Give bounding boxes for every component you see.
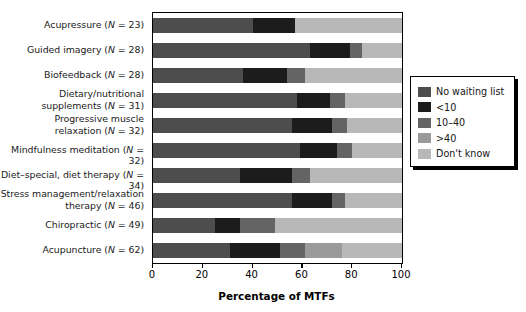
x-axis-tick-label: 100 xyxy=(391,269,410,280)
category-label: Guided imagery (N = 28) xyxy=(0,44,144,55)
legend-item[interactable]: >40 xyxy=(418,132,456,145)
legend-item[interactable]: No waiting list xyxy=(418,85,504,98)
bar-segment xyxy=(153,68,243,83)
bar-segment xyxy=(362,43,402,58)
bar-segment xyxy=(310,43,350,58)
bar-segment xyxy=(352,143,402,158)
bar-segment xyxy=(215,218,240,233)
bar-row xyxy=(153,18,402,33)
category-label: Acupressure (N = 23) xyxy=(0,19,144,30)
bar-row xyxy=(153,43,402,58)
bar-segment xyxy=(240,168,292,183)
x-axis-tick xyxy=(152,263,153,268)
bar-segment xyxy=(153,18,253,33)
bar-segment xyxy=(330,93,345,108)
bar-segment xyxy=(337,143,352,158)
category-label: Mindfulness meditation (N = 32) xyxy=(0,144,144,166)
bar-segment xyxy=(153,193,292,208)
bar-segment xyxy=(347,118,402,133)
x-axis-tick xyxy=(202,263,203,268)
bar-segment xyxy=(275,218,402,233)
x-axis-tick xyxy=(252,263,253,268)
chart-figure: Acupressure (N = 23)Guided imagery (N = … xyxy=(0,0,526,312)
bar-segment xyxy=(305,68,402,83)
x-axis-tick xyxy=(301,263,302,268)
bar-segment xyxy=(253,18,295,33)
stacked-bars xyxy=(153,13,402,263)
legend-label: 10–40 xyxy=(436,117,465,128)
legend-label: Don't know xyxy=(436,148,490,159)
bar-segment xyxy=(342,243,402,258)
legend-item[interactable]: Don't know xyxy=(418,147,490,160)
bar-segment xyxy=(297,93,329,108)
x-axis-tick xyxy=(351,263,352,268)
legend-item[interactable]: 10–40 xyxy=(418,116,465,129)
bar-row xyxy=(153,118,402,133)
x-axis-title: Percentage of MTFs xyxy=(152,290,401,302)
bar-segment xyxy=(153,243,230,258)
legend-label: No waiting list xyxy=(436,86,504,97)
bar-segment xyxy=(292,168,309,183)
bar-segment xyxy=(332,193,344,208)
bar-row xyxy=(153,218,402,233)
legend-swatch xyxy=(418,102,431,112)
legend-swatch xyxy=(418,118,431,128)
bar-segment xyxy=(153,168,240,183)
bar-segment xyxy=(153,118,292,133)
x-axis-tick-label: 60 xyxy=(295,269,308,280)
bar-segment xyxy=(153,143,300,158)
bar-segment xyxy=(240,218,275,233)
bar-segment xyxy=(300,143,337,158)
category-label: Dietary/nutritionalsupplements (N = 31) xyxy=(0,88,144,110)
bar-segment xyxy=(153,218,215,233)
category-label: Chiropractic (N = 49) xyxy=(0,219,144,230)
bar-row xyxy=(153,143,402,158)
category-axis-labels: Acupressure (N = 23)Guided imagery (N = … xyxy=(0,12,148,262)
x-axis-tick-label: 40 xyxy=(245,269,258,280)
bar-segment xyxy=(153,93,297,108)
chart-legend: No waiting list<1010–40>40Don't know xyxy=(410,76,515,167)
legend-label: <10 xyxy=(436,102,456,113)
x-axis-tick-label: 80 xyxy=(345,269,358,280)
category-label: Biofeedback (N = 28) xyxy=(0,69,144,80)
bar-segment xyxy=(280,243,305,258)
bar-segment xyxy=(310,168,402,183)
bar-segment xyxy=(292,118,332,133)
legend-swatch xyxy=(418,87,431,97)
bar-segment xyxy=(350,43,362,58)
x-axis-tick-label: 20 xyxy=(195,269,208,280)
legend-label: >40 xyxy=(436,133,456,144)
bar-row xyxy=(153,68,402,83)
category-label: Acupuncture (N = 62) xyxy=(0,244,144,255)
category-label: Progressive musclerelaxation (N = 32) xyxy=(0,113,144,135)
bar-segment xyxy=(345,93,402,108)
bar-segment xyxy=(287,68,304,83)
bar-segment xyxy=(345,193,402,208)
bar-segment xyxy=(243,68,288,83)
bar-segment xyxy=(295,18,402,33)
legend-swatch xyxy=(418,149,431,159)
bar-row xyxy=(153,168,402,183)
category-label: Stress management/relaxationtherapy (N =… xyxy=(0,188,144,210)
bar-segment xyxy=(305,243,342,258)
bar-row xyxy=(153,243,402,258)
bar-segment xyxy=(292,193,332,208)
plot-area xyxy=(152,12,403,264)
legend-item[interactable]: <10 xyxy=(418,101,456,114)
bar-segment xyxy=(153,43,310,58)
bar-segment xyxy=(230,243,280,258)
x-axis: 020406080100 xyxy=(152,263,401,293)
bar-segment xyxy=(332,118,347,133)
legend-swatch xyxy=(418,133,431,143)
x-axis-tick-label: 0 xyxy=(149,269,155,280)
bar-row xyxy=(153,93,402,108)
x-axis-tick xyxy=(401,263,402,268)
bar-row xyxy=(153,193,402,208)
